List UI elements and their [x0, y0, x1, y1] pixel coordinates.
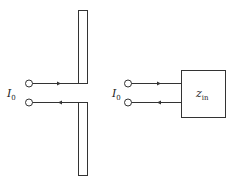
arrow-left-icon [157, 101, 161, 105]
right-current-label: I0 [112, 87, 121, 102]
dipole-upper-arm [79, 11, 88, 84]
arrow-right-icon [57, 82, 61, 86]
dipole-lower-arm [79, 103, 88, 176]
arrow-right-icon [157, 82, 161, 86]
left-terminal-top [26, 80, 33, 87]
right-terminal-top [125, 80, 132, 87]
arrow-left-icon [58, 101, 62, 105]
diagram-canvas: I0 I0 zin [0, 0, 234, 189]
left-terminal-bottom [26, 99, 33, 106]
input-impedance-label: zin [196, 87, 209, 102]
left-current-label: I0 [7, 87, 16, 102]
right-terminal-bottom [125, 99, 132, 106]
